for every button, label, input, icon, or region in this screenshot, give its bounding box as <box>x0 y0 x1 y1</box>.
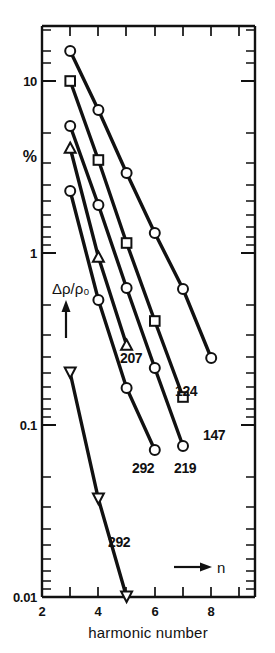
top-axis-ticks <box>70 26 239 36</box>
xtick-label-6: 6 <box>152 604 159 619</box>
bottom-axis-ticks <box>70 587 239 597</box>
ytick-label-1: 1 <box>30 246 37 261</box>
series-label-207: 207 <box>120 350 143 366</box>
right-axis-log-ticks <box>241 30 255 589</box>
ytick-label-0.01: 0.01 <box>13 590 37 605</box>
series-label-147: 147 <box>203 427 226 443</box>
left-axis-log-ticks <box>42 30 56 589</box>
series-292-down-triangles <box>65 368 132 603</box>
ytick-label-10: 10 <box>23 74 37 89</box>
x-axis-arrow-icon <box>174 563 212 572</box>
xtick-label-2: 2 <box>39 604 46 619</box>
x-axis-arrow-label-n: n <box>217 559 225 576</box>
series-label-124: 124 <box>175 383 198 399</box>
series-label-219: 219 <box>174 460 197 476</box>
series-label-292-circles: 292 <box>132 460 155 476</box>
series-label-292-triangles: 292 <box>108 534 131 550</box>
figure-log-plot: 10 1 0.1 0.01 % Δρ/ρ₀ 2 4 6 8 harmonic n… <box>0 0 275 653</box>
xtick-label-8: 8 <box>208 604 215 619</box>
ytick-label-0.1: 0.1 <box>20 418 37 433</box>
y-axis-up-arrow-icon <box>62 300 71 338</box>
plot-frame <box>42 26 255 597</box>
xtick-label-4: 4 <box>95 604 103 619</box>
y-axis-label-delta-rho: Δρ/ρ₀ <box>52 280 89 297</box>
series-147 <box>65 46 216 363</box>
y-unit-percent-label: % <box>23 148 37 165</box>
x-axis-title: harmonic number <box>88 624 208 641</box>
